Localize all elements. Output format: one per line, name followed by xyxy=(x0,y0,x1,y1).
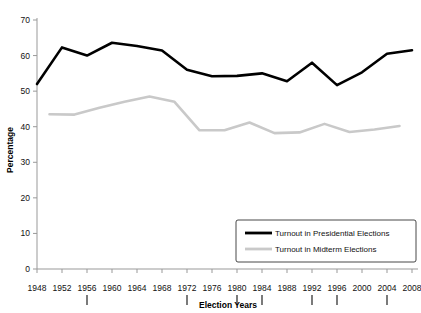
y-axis-title: Percentage xyxy=(5,127,15,173)
y-tick-label: 10 xyxy=(21,228,31,238)
turnout-line-chart: 010203040506070 194819521956196019641968… xyxy=(0,0,421,313)
x-tick-label: 1968 xyxy=(153,283,172,293)
chart-canvas: 010203040506070 194819521956196019641968… xyxy=(0,0,421,313)
x-axis-title: Election Years xyxy=(199,300,257,310)
y-axis: 010203040506070 xyxy=(21,15,37,274)
x-tick-label: 1988 xyxy=(278,283,297,293)
x-tick-label: 1964 xyxy=(128,283,147,293)
x-tick-label: 1972 xyxy=(178,283,197,293)
x-tick-label: 1980 xyxy=(228,283,247,293)
x-tick-label: 1960 xyxy=(103,283,122,293)
x-axis-tick-labels: 1948195219561960196419681972197619801984… xyxy=(28,283,421,293)
y-axis-ticks xyxy=(33,20,37,269)
legend-label-0: Turnout in Presidential Elections xyxy=(275,229,389,238)
x-tick-label: 2004 xyxy=(378,283,397,293)
x-axis-ticks xyxy=(37,269,412,273)
series-lines xyxy=(37,43,412,133)
x-tick-label: 2008 xyxy=(403,283,421,293)
y-axis-tick-labels: 010203040506070 xyxy=(21,15,31,274)
series-line-midterm xyxy=(50,96,400,133)
x-tick-label: 1952 xyxy=(53,283,72,293)
legend: Turnout in Presidential ElectionsTurnout… xyxy=(236,220,416,262)
x-tick-label: 1992 xyxy=(303,283,322,293)
legend-box xyxy=(236,220,416,262)
y-tick-label: 50 xyxy=(21,86,31,96)
legend-label-1: Turnout in Midterm Elections xyxy=(275,245,377,254)
x-tick-label: 2000 xyxy=(353,283,372,293)
x-tick-label: 1948 xyxy=(28,283,47,293)
x-tick-label: 1956 xyxy=(78,283,97,293)
series-line-presidential xyxy=(37,43,412,85)
x-tick-label: 1996 xyxy=(328,283,347,293)
y-tick-label: 0 xyxy=(25,264,30,274)
y-tick-label: 40 xyxy=(21,122,31,132)
y-tick-label: 20 xyxy=(21,193,31,203)
y-tick-label: 30 xyxy=(21,157,31,167)
x-tick-label: 1976 xyxy=(203,283,222,293)
x-tick-label: 1984 xyxy=(253,283,272,293)
y-tick-label: 70 xyxy=(21,15,31,25)
y-tick-label: 60 xyxy=(21,51,31,61)
